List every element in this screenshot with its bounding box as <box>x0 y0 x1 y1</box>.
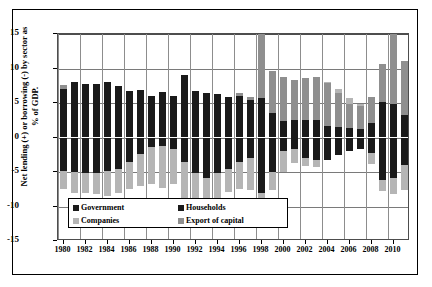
bar-segment <box>335 127 342 137</box>
bar-segment <box>247 97 254 100</box>
x-axis-tick-mark <box>85 240 86 244</box>
bar-segment <box>313 77 320 119</box>
x-axis-tick-label: 2010 <box>378 245 408 254</box>
x-axis-tick-mark <box>173 240 174 244</box>
bar-segment <box>60 85 67 89</box>
bar-segment <box>302 138 309 159</box>
y-axis-tick-mark <box>53 68 57 69</box>
bar-segment <box>335 93 342 127</box>
bar-column <box>324 34 331 239</box>
y-axis-tick-label: 10 <box>0 62 19 72</box>
bar-segment <box>302 78 309 119</box>
y-axis-tick-mark <box>53 102 57 103</box>
bar-segment <box>280 151 287 172</box>
bar-segment <box>71 138 78 173</box>
legend-label-government: Government <box>81 203 124 212</box>
bar-column <box>401 34 408 239</box>
bar-segment <box>313 160 320 167</box>
bar-segment <box>104 138 111 172</box>
bar-segment <box>170 96 177 137</box>
bar-segment <box>60 89 67 137</box>
bar-segment <box>401 115 408 138</box>
y-axis-tick-mark <box>53 240 57 241</box>
bar-segment <box>335 138 342 156</box>
legend-item-households: Households <box>178 203 283 212</box>
bar-segment <box>346 104 353 128</box>
bar-column <box>335 34 342 239</box>
bar-segment <box>159 92 166 138</box>
bar-segment <box>192 173 199 201</box>
bar-segment <box>280 121 287 138</box>
bar-segment <box>313 120 320 138</box>
legend-label-export-of-capital: Export of capital <box>186 216 244 225</box>
y-axis-tick-mark <box>53 137 57 138</box>
bar-segment <box>225 169 232 192</box>
x-axis-tick-mark <box>195 240 196 244</box>
chart-legend: Government Households Companies Export o… <box>68 198 288 228</box>
y-axis-tick-mark <box>53 206 57 207</box>
bar-column <box>357 34 364 239</box>
bar-segment <box>214 94 221 137</box>
x-axis-tick-mark <box>217 240 218 244</box>
bar-segment <box>390 138 397 178</box>
x-axis-tick-mark <box>393 240 394 244</box>
bar-segment <box>214 138 221 174</box>
y-axis-tick-mark <box>53 171 57 172</box>
bar-segment <box>104 82 111 138</box>
bar-segment <box>346 98 353 104</box>
x-axis-tick-mark <box>151 240 152 244</box>
x-axis-tick-mark <box>371 240 372 244</box>
bar-column <box>346 34 353 239</box>
bar-segment <box>126 162 133 189</box>
legend-item-government: Government <box>73 203 178 212</box>
legend-swatch-households <box>178 205 184 211</box>
gridline-vertical <box>58 34 59 239</box>
y-axis-title: Net lending (+) or borrowing (-) by sect… <box>19 22 40 192</box>
bar-segment <box>401 61 408 115</box>
bar-segment <box>236 96 243 137</box>
bar-segment <box>291 120 298 137</box>
bar-segment <box>291 149 298 163</box>
bar-segment <box>137 138 144 155</box>
bar-segment <box>280 77 287 120</box>
bar-segment <box>115 169 122 193</box>
x-axis-tick-mark <box>129 240 130 244</box>
bar-segment <box>390 33 397 104</box>
gridline-vertical <box>388 34 389 239</box>
bar-segment <box>236 138 243 163</box>
chart-figure: Net lending (+) or borrowing (-) by sect… <box>0 0 432 287</box>
bar-segment <box>225 97 232 137</box>
bar-segment <box>379 138 386 181</box>
gridline-vertical <box>344 34 345 239</box>
bar-segment <box>82 138 89 173</box>
bar-segment <box>269 172 276 190</box>
bar-segment <box>324 82 331 83</box>
y-axis-tick-label: 5 <box>0 96 19 106</box>
bar-column <box>291 34 298 239</box>
bar-segment <box>379 102 386 138</box>
bar-segment <box>302 158 309 166</box>
bar-segment <box>82 173 89 193</box>
bar-segment <box>137 154 144 186</box>
bar-segment <box>258 138 265 193</box>
y-axis-tick-label: 0 <box>0 131 19 141</box>
bar-segment <box>203 138 210 178</box>
bar-segment <box>159 146 166 188</box>
legend-swatch-government <box>73 205 79 211</box>
bar-segment <box>269 138 276 173</box>
legend-item-export-of-capital: Export of capital <box>178 216 283 225</box>
bar-segment <box>258 33 265 98</box>
bar-segment <box>192 138 199 174</box>
bar-segment <box>181 162 188 201</box>
bar-column <box>60 34 67 239</box>
bar-segment <box>82 84 89 137</box>
bar-segment <box>170 138 177 149</box>
legend-row: Government Households <box>73 201 283 214</box>
bar-segment <box>379 64 386 101</box>
bar-segment <box>93 84 100 138</box>
bar-column <box>368 34 375 239</box>
bar-segment <box>401 165 408 190</box>
bar-segment <box>247 158 254 190</box>
bar-segment <box>247 138 254 159</box>
bar-segment <box>368 138 375 154</box>
